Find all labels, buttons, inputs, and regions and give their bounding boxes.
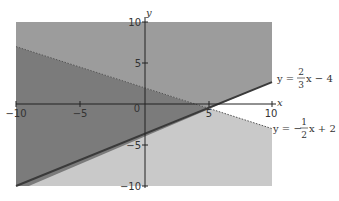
y-tick-label: 5 (135, 58, 141, 69)
line1-equation-label: y = 2 3 x − 4 (276, 67, 333, 90)
svg-text:x − 4: x − 4 (306, 73, 333, 84)
line2-equation-label: y = − 1 2 x + 2 (272, 117, 336, 140)
x-tick-label: −10 (5, 108, 26, 119)
y-axis-label: y (145, 7, 152, 18)
x-axis-label: x (277, 97, 283, 108)
x-tick-label: −5 (73, 108, 88, 119)
svg-text:1: 1 (301, 117, 307, 127)
svg-text:2: 2 (298, 67, 304, 77)
x-tick-label: 5 (206, 108, 212, 119)
y-tick-label: 10 (128, 17, 141, 28)
svg-text:x + 2: x + 2 (309, 123, 336, 134)
inequality-graph: −10 −5 0 5 10 10 5 −5 −10 x y y = 2 3 x … (0, 0, 339, 201)
svg-text:3: 3 (298, 80, 304, 90)
x-tick-label: 10 (265, 108, 278, 119)
svg-text:y = −: y = − (272, 123, 302, 134)
y-tick-label: −10 (120, 181, 141, 192)
svg-text:y =: y = (276, 73, 294, 84)
plot-area (16, 22, 272, 192)
svg-text:2: 2 (301, 130, 307, 140)
y-tick-label: −5 (126, 140, 141, 151)
x-tick-label: 0 (134, 103, 140, 114)
